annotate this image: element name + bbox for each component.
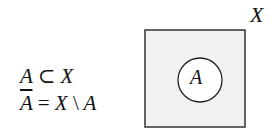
venn-diagram bbox=[0, 0, 279, 135]
set-a-label: A bbox=[190, 66, 202, 89]
universe-label: X bbox=[250, 2, 263, 28]
